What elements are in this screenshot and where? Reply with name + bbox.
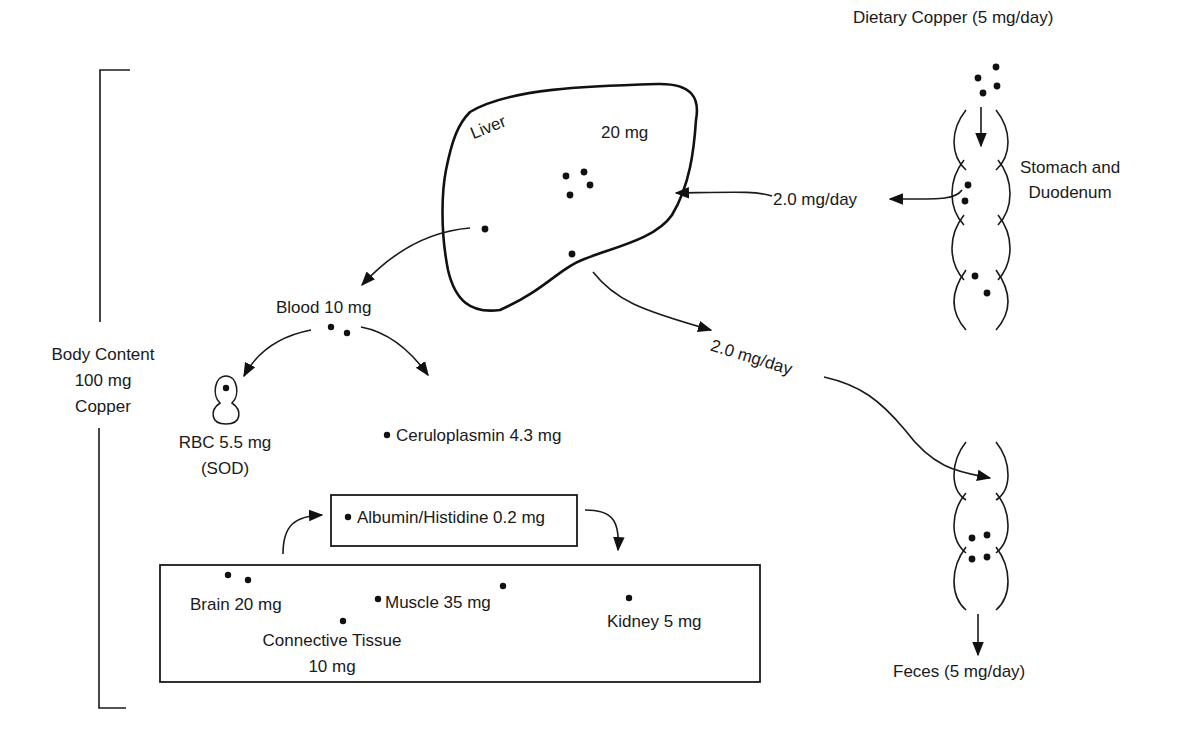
rbc-amount-label: RBC 5.5 mg xyxy=(179,433,272,453)
liver-copper-dots xyxy=(482,169,594,258)
albumin-to-tissue-arrow xyxy=(585,510,618,550)
feces-label: Feces (5 mg/day) xyxy=(893,662,1025,682)
liver-biliary-arrow xyxy=(593,272,711,330)
body-content-line1: Body Content xyxy=(51,345,154,365)
dietary-copper-dots xyxy=(975,64,1001,97)
dietary-copper-label: Dietary Copper (5 mg/day) xyxy=(853,8,1053,28)
ceruloplasmin-dot xyxy=(384,432,390,438)
blood-label: Blood 10 mg xyxy=(276,298,371,318)
connective-tissue-amount: 10 mg xyxy=(263,657,402,677)
bile-to-intestine-arrow xyxy=(824,377,990,478)
blood-to-rbc-arrow xyxy=(244,330,311,376)
stomach-duodenum-label: Stomach and Duodenum xyxy=(1020,158,1120,203)
rbc-label: RBC 5.5 mg (SOD) xyxy=(179,433,272,479)
liver-amount-label: 20 mg xyxy=(601,123,648,143)
gut-to-liver-arrow-2 xyxy=(676,192,772,196)
brain-label: Brain 20 mg xyxy=(190,595,282,615)
body-content-label: Body Content 100 mg Copper xyxy=(51,345,154,417)
stomach-label: Stomach and xyxy=(1020,158,1120,178)
lower-gut-segments xyxy=(954,442,1008,610)
liver-to-blood-arrow xyxy=(362,228,470,285)
gut-to-liver-flow-label: 2.0 mg/day xyxy=(773,190,857,210)
diagram-graphics xyxy=(0,0,1183,738)
tissue-to-albumin-arrow xyxy=(283,515,322,554)
albumin-dot xyxy=(345,514,351,520)
connective-tissue-name: Connective Tissue xyxy=(263,631,402,651)
rbc-cell-icon xyxy=(213,376,239,424)
copper-metabolism-diagram: Dietary Copper (5 mg/day) Stomach and Du… xyxy=(0,0,1183,738)
gut-to-liver-arrow-1 xyxy=(890,190,962,199)
rbc-sod-label: (SOD) xyxy=(179,459,272,479)
albumin-label: Albumin/Histidine 0.2 mg xyxy=(357,508,545,528)
ceruloplasmin-label: Ceruloplasmin 4.3 mg xyxy=(396,426,561,446)
kidney-label: Kidney 5 mg xyxy=(607,612,702,632)
muscle-label: Muscle 35 mg xyxy=(385,593,491,613)
blood-to-ceruloplasmin-arrow xyxy=(361,327,428,375)
connective-tissue-label: Connective Tissue 10 mg xyxy=(263,631,402,677)
duodenum-label: Duodenum xyxy=(1020,183,1120,203)
body-content-line3: Copper xyxy=(51,397,154,417)
blood-copper-dots xyxy=(328,324,350,336)
body-content-line2: 100 mg xyxy=(51,371,154,391)
